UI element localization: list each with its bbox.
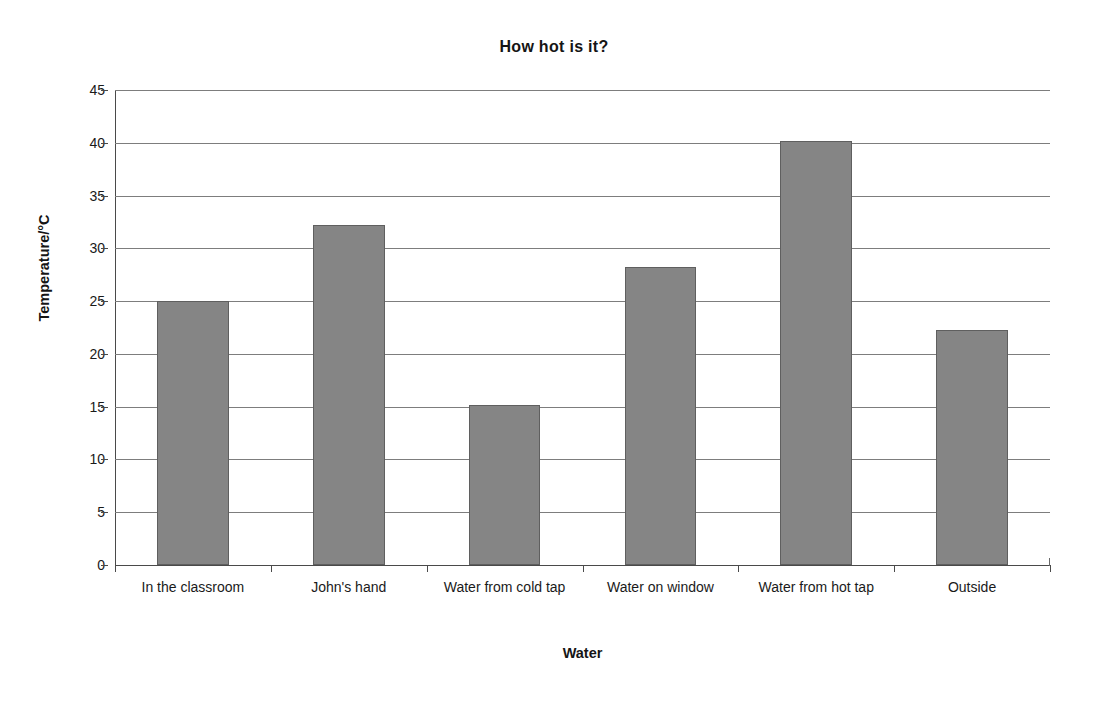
bar	[313, 225, 385, 565]
bar	[780, 141, 852, 565]
x-tick-label: Water on window	[583, 578, 739, 597]
x-tick-mark	[115, 565, 116, 572]
x-tick-label: Water from cold tap	[427, 578, 583, 597]
x-tick-label: In the classroom	[115, 578, 271, 597]
y-tick-mark-0	[101, 565, 108, 566]
x-tick-mark	[427, 565, 428, 572]
y-tick-mark-45	[101, 90, 108, 91]
x-axis-title: Water	[115, 645, 1050, 661]
gridline-45	[115, 90, 1050, 91]
gridline-35	[115, 196, 1050, 197]
x-axis-tick-marks	[115, 565, 1050, 573]
y-tick-mark-20	[101, 354, 108, 355]
x-tick-label: Water from hot tap	[738, 578, 894, 597]
y-tick-label-30: 30	[45, 240, 105, 256]
x-tick-mark	[738, 565, 739, 572]
y-tick-label-40: 40	[45, 135, 105, 151]
y-tick-label-10: 10	[45, 451, 105, 467]
y-axis-tick-labels: 051015202530354045	[45, 90, 105, 565]
y-tick-label-25: 25	[45, 293, 105, 309]
right-corner-tick	[1049, 558, 1050, 566]
x-tick-label: John's hand	[271, 578, 427, 597]
y-tick-label-0: 0	[45, 557, 105, 573]
y-tick-mark-10	[101, 459, 108, 460]
y-tick-mark-15	[101, 407, 108, 408]
gridline-40	[115, 143, 1050, 144]
chart-title: How hot is it?	[0, 38, 1108, 56]
y-tick-mark-35	[101, 196, 108, 197]
x-axis-tick-labels: In the classroomJohn's handWater from co…	[115, 578, 1050, 638]
gridline-25	[115, 301, 1050, 302]
gridline-15	[115, 407, 1050, 408]
x-tick-mark	[271, 565, 272, 572]
bar	[469, 405, 541, 565]
bar	[157, 301, 229, 565]
x-tick-mark	[1050, 565, 1051, 572]
y-tick-mark-5	[101, 512, 108, 513]
bar	[625, 267, 697, 565]
y-tick-label-5: 5	[45, 504, 105, 520]
gridline-30	[115, 248, 1050, 249]
x-tick-mark	[583, 565, 584, 572]
y-tick-label-15: 15	[45, 399, 105, 415]
x-tick-mark	[894, 565, 895, 572]
gridline-20	[115, 354, 1050, 355]
y-tick-label-45: 45	[45, 82, 105, 98]
y-tick-mark-30	[101, 248, 108, 249]
y-tick-mark-25	[101, 301, 108, 302]
bar-chart-figure: How hot is it? Temperature/°C 0510152025…	[0, 0, 1108, 705]
plot-area	[115, 90, 1050, 565]
y-tick-mark-40	[101, 143, 108, 144]
y-tick-label-20: 20	[45, 346, 105, 362]
y-tick-label-35: 35	[45, 188, 105, 204]
bar	[936, 330, 1008, 565]
gridline-5	[115, 512, 1050, 513]
gridline-10	[115, 459, 1050, 460]
x-tick-label: Outside	[894, 578, 1050, 597]
